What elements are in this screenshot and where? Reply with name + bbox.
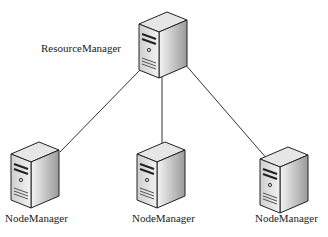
- node-manager-2-server-icon: [135, 140, 187, 210]
- node-manager-3-label: NodeManager: [255, 212, 318, 224]
- resource-manager-label: ResourceManager: [41, 42, 121, 54]
- link-rm-nm3: [184, 63, 268, 160]
- resource-manager-server-icon: [137, 10, 189, 80]
- node-manager-3-server-icon: [258, 145, 310, 215]
- node-manager-2-label: NodeManager: [132, 212, 195, 224]
- node-manager-1-server-icon: [9, 140, 61, 210]
- node-manager-1-label: NodeManager: [5, 212, 68, 224]
- link-rm-nm1: [60, 70, 140, 152]
